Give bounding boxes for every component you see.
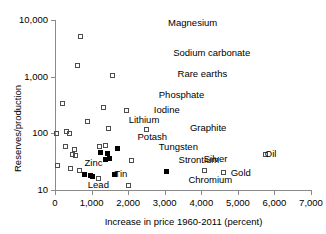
data-point — [60, 101, 65, 106]
data-point-label: Sodium carbonate — [173, 47, 250, 58]
x-tick-mark — [128, 191, 129, 195]
x-tick-label: 7,000 — [291, 197, 326, 208]
data-point — [88, 173, 93, 178]
data-point-label: Oil — [265, 148, 277, 159]
data-point-zinc — [82, 172, 87, 177]
x-tick-mark — [274, 191, 275, 195]
x-axis-title: Increase in price 1960-2011 (percent) — [55, 216, 312, 227]
y-tick-mark — [51, 20, 55, 21]
data-point-label: Chromium — [188, 174, 232, 185]
data-point — [103, 143, 108, 148]
data-point — [103, 157, 108, 162]
data-point — [77, 168, 82, 173]
x-tick-mark — [55, 191, 56, 195]
scatter-chart: Reserves/production Increase in price 19… — [0, 0, 326, 234]
data-point-label: Tungsten — [159, 141, 198, 152]
y-tick-label: 10,000 — [0, 14, 48, 25]
data-point-phosphate — [101, 105, 106, 110]
data-point-sodium-carbonate — [75, 63, 80, 68]
data-point-label: Magnesium — [168, 17, 217, 28]
data-point — [98, 150, 103, 155]
data-point-label: Rare earths — [178, 68, 228, 79]
data-point-tungsten — [115, 146, 120, 151]
x-tick-label: 3,000 — [145, 197, 185, 208]
data-point-lithium — [85, 119, 90, 124]
x-tick-mark — [311, 191, 312, 195]
data-point-chromium — [164, 169, 169, 174]
data-point — [126, 183, 131, 188]
data-point — [73, 153, 78, 158]
y-tick-mark — [51, 77, 55, 78]
x-tick-label: 6,000 — [254, 197, 294, 208]
x-tick-label: 1,000 — [72, 197, 112, 208]
data-point — [54, 131, 59, 136]
data-point — [68, 166, 73, 171]
x-tick-label: 0 — [35, 197, 75, 208]
data-point-potash — [106, 126, 111, 131]
x-tick-label: 2,000 — [108, 197, 148, 208]
x-tick-mark — [92, 191, 93, 195]
data-point-label: Phosphate — [159, 89, 204, 100]
data-point — [97, 144, 102, 149]
data-point-strontium — [129, 158, 134, 163]
data-point-label: Graphite — [190, 122, 226, 133]
data-point-label: Silver — [204, 153, 228, 164]
data-point — [96, 176, 101, 181]
data-point — [55, 163, 60, 168]
data-point-graphite — [144, 127, 149, 132]
y-tick-label: 1,000 — [0, 71, 48, 82]
x-tick-mark — [238, 191, 239, 195]
data-point-label: Tin — [114, 168, 127, 179]
x-tick-mark — [201, 191, 202, 195]
x-tick-label: 5,000 — [218, 197, 258, 208]
x-tick-label: 4,000 — [181, 197, 221, 208]
data-point-silver — [202, 168, 207, 173]
data-point-rare-earths — [110, 73, 115, 78]
data-point-iodine — [124, 108, 129, 113]
data-point-label: Gold — [231, 167, 251, 178]
data-point — [107, 156, 112, 161]
data-point — [67, 131, 72, 136]
data-point-magnesium — [78, 34, 83, 39]
data-point-label: Lithium — [129, 114, 160, 125]
data-point — [63, 144, 68, 149]
x-tick-mark — [165, 191, 166, 195]
y-tick-label: 10 — [0, 184, 48, 195]
y-tick-label: 100 — [0, 127, 48, 138]
data-point-label: Zinc — [84, 157, 102, 168]
